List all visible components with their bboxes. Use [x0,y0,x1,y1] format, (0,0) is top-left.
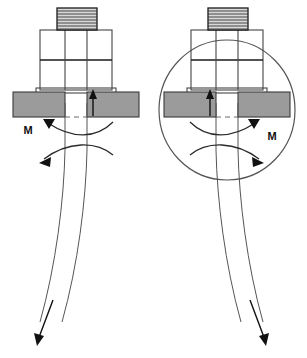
threaded-stud-right [208,8,248,30]
right-assembly: M [159,8,295,346]
nut-body-left [36,30,116,93]
clamped-plate-right [164,92,290,117]
flexible-shaft-right [216,103,269,346]
threaded-stud-left [57,8,97,30]
engineering-diagram: M [0,0,307,358]
moment-arc-right [190,119,264,167]
figure-canvas: M [0,0,307,358]
left-assembly: M [13,8,139,346]
moment-label-right: M [267,130,276,142]
moment-arc-left [39,119,113,167]
clamped-plate-left [13,92,139,117]
flexible-shaft-left [34,103,87,346]
moment-label-left: M [23,124,32,136]
